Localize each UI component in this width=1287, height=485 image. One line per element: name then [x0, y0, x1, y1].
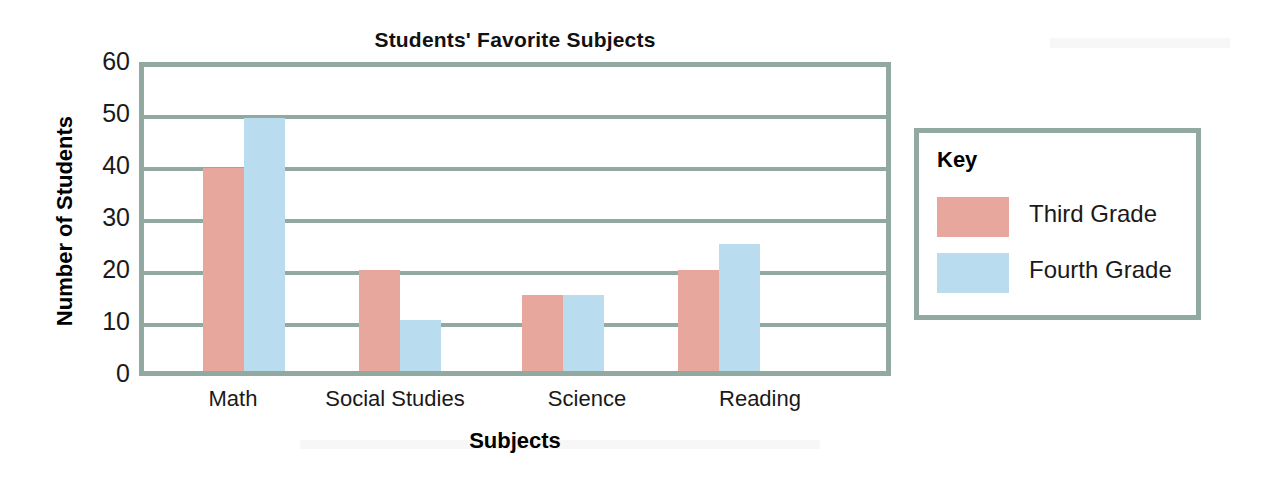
- x-tick-label-math: Math: [163, 386, 303, 412]
- chart-title: Students' Favorite Subjects: [345, 28, 685, 52]
- y-axis-title: Number of Students: [52, 96, 78, 346]
- legend-title: Key: [937, 147, 977, 173]
- x-tick-label-science: Science: [517, 386, 657, 412]
- bar-reading-third-grade: [678, 270, 719, 371]
- bar-math-fourth-grade: [244, 118, 285, 371]
- x-tick-label-social-studies: Social Studies: [305, 386, 485, 412]
- legend-label-fourth-grade: Fourth Grade: [1029, 256, 1172, 284]
- bar-social-studies-third-grade: [359, 270, 400, 371]
- legend-box: Key Third Grade Fourth Grade: [914, 128, 1201, 320]
- bar-science-fourth-grade: [563, 295, 604, 371]
- bar-science-third-grade: [522, 295, 563, 371]
- x-tick-label-reading: Reading: [690, 386, 830, 412]
- legend-label-third-grade: Third Grade: [1029, 200, 1157, 228]
- legend-swatch-third-grade: [937, 197, 1009, 237]
- bar-math-third-grade: [203, 168, 244, 371]
- y-tick-label: 0: [66, 361, 130, 386]
- legend-swatch-fourth-grade: [937, 253, 1009, 293]
- y-tick-label: 60: [66, 49, 130, 74]
- bar-reading-fourth-grade: [719, 244, 760, 371]
- plot-area: [139, 62, 891, 376]
- bar-social-studies-fourth-grade: [400, 320, 441, 371]
- bar-chart-figure: Students' Favorite Subjects 60 50 40 30 …: [0, 0, 1287, 485]
- scan-artifact: [1050, 38, 1230, 48]
- x-axis-title: Subjects: [139, 428, 891, 454]
